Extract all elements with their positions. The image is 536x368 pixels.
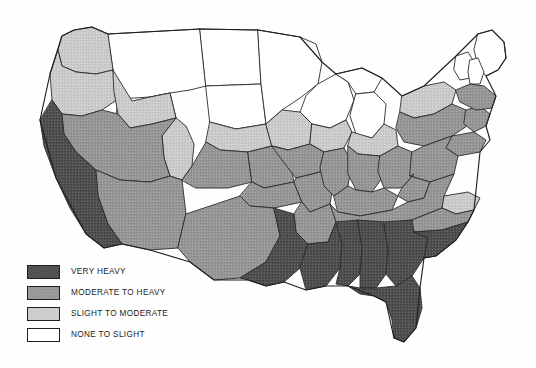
map-page: VERY HEAVY MODERATE TO HEAVY SLIGHT TO M… — [0, 0, 536, 368]
region-alabama[interactable] — [358, 220, 388, 288]
legend-swatch-very-heavy — [27, 265, 60, 279]
legend-label-moderate-to-heavy: MODERATE TO HEAVY — [71, 288, 166, 297]
legend-item-very-heavy[interactable]: VERY HEAVY — [27, 261, 227, 282]
legend-item-slight-to-moderate[interactable]: SLIGHT TO MODERATE — [27, 303, 227, 324]
region-north-dakota[interactable] — [200, 29, 261, 86]
legend-label-slight-to-moderate: SLIGHT TO MODERATE — [71, 309, 168, 318]
legend-label-none-to-slight: NONE TO SLIGHT — [71, 330, 145, 339]
legend-swatch-slight-to-moderate — [27, 307, 60, 321]
legend-item-none-to-slight[interactable]: NONE TO SLIGHT — [27, 324, 227, 345]
region-south-dakota[interactable] — [206, 84, 266, 129]
legend: VERY HEAVY MODERATE TO HEAVY SLIGHT TO M… — [27, 261, 227, 345]
region-florida[interactable] — [348, 276, 422, 342]
legend-label-very-heavy: VERY HEAVY — [71, 267, 126, 276]
legend-swatch-moderate-to-heavy — [27, 286, 60, 300]
legend-swatch-none-to-slight — [27, 328, 60, 342]
region-southern-new-england[interactable] — [456, 84, 496, 110]
legend-item-moderate-to-heavy[interactable]: MODERATE TO HEAVY — [27, 282, 227, 303]
